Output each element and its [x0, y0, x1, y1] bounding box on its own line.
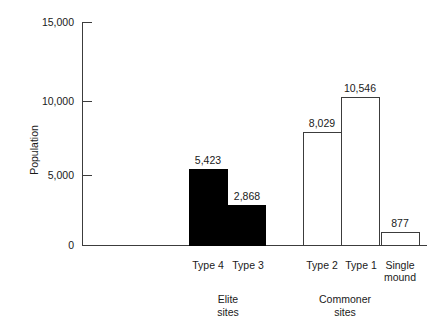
group-label-commoner-line2: sites	[334, 306, 356, 318]
category-label-single-mound-line1: Single	[385, 259, 414, 271]
value-label-type-2: 8,029	[309, 117, 335, 129]
bar-type-4	[190, 170, 228, 246]
category-label-single-mound-line2: mound	[384, 271, 416, 283]
value-label-single-mound: 877	[391, 217, 409, 229]
population-bar-chart: 15,000 10,000 5,000 0 Population 5,42	[0, 0, 447, 328]
category-label-type-1: Type 1	[345, 259, 377, 271]
y-tick-label-5000: 5,000	[48, 169, 74, 181]
group-label-commoner-line1: Commoner	[319, 293, 371, 305]
category-label-type-4: Type 4	[192, 259, 224, 271]
category-labels: Type 4 Type 3 Type 2 Type 1 Single mound	[192, 259, 416, 283]
y-axis: 15,000 10,000 5,000 0 Population	[28, 16, 92, 251]
category-label-type-3: Type 3	[232, 259, 264, 271]
group-labels: Elite sites Commoner sites	[217, 293, 371, 318]
y-axis-title: Population	[28, 125, 40, 175]
group-label-elite-line2: sites	[217, 306, 239, 318]
bar-series	[190, 98, 420, 246]
y-tick-label-0: 0	[68, 239, 74, 251]
chart-canvas: 15,000 10,000 5,000 0 Population 5,42	[0, 0, 447, 328]
value-label-type-1: 10,546	[344, 82, 376, 94]
bar-type-3	[228, 206, 266, 246]
bar-type-1	[342, 98, 380, 246]
y-tick-label-10000: 10,000	[42, 95, 74, 107]
value-label-type-3: 2,868	[234, 190, 260, 202]
y-tick-label-15000: 15,000	[42, 16, 74, 28]
group-label-elite-line1: Elite	[218, 293, 239, 305]
value-label-type-4: 5,423	[195, 154, 221, 166]
category-label-type-2: Type 2	[306, 259, 338, 271]
bar-single-mound	[382, 233, 420, 246]
bar-type-2	[304, 133, 342, 246]
